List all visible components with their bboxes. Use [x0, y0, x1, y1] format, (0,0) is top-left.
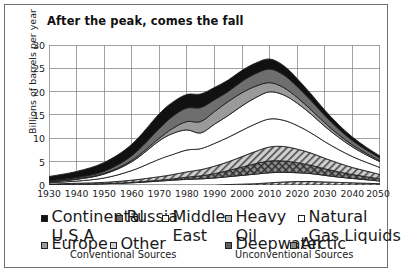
swatch-russia-icon [116, 215, 123, 222]
legend-group-conventional: Conventional Sources [70, 249, 176, 260]
swatch-heavy-oil-icon [225, 215, 232, 222]
swatch-continental-usa-icon [41, 215, 48, 222]
x-tick-1980: 1980 [175, 188, 199, 199]
x-tick-1970: 1970 [147, 188, 171, 199]
legend-label-middle-east: Middle [173, 207, 226, 226]
legend-item-middle-east[interactable]: MiddleEast [162, 207, 225, 245]
y-tick-30: 30 [23, 41, 45, 51]
x-tick-2000: 2000 [230, 188, 254, 199]
chart-title: After the peak, comes the fall [47, 14, 244, 28]
x-tick-1990: 1990 [203, 188, 227, 199]
x-tick-1960: 1960 [120, 188, 144, 199]
x-tick-2030: 2030 [313, 188, 337, 199]
y-tick-25: 25 [23, 64, 45, 74]
legend-group-unconventional: Unconventional Sources [235, 249, 353, 260]
x-tick-2020: 2020 [285, 188, 309, 199]
x-tick-2010: 2010 [258, 188, 282, 199]
plot-area [49, 45, 380, 185]
legend-label-middle-east-2: East [173, 226, 208, 245]
x-tick-1930: 1930 [37, 188, 61, 199]
x-axis-ticks: 1930 1940 1950 1960 1970 1980 1990 2000 … [5, 188, 389, 202]
legend-label-heavy-oil: Heavy [236, 207, 287, 226]
swatch-deepwater-icon [225, 242, 232, 249]
legend-label-natural-gas-liquids: Natural [309, 207, 368, 226]
y-tick-20: 20 [23, 88, 45, 98]
swatch-arctic-icon [290, 242, 297, 249]
swatch-middle-east-icon [162, 215, 169, 222]
y-axis-ticks: 30 25 20 15 10 5 0 [21, 45, 45, 185]
stacked-area-chart [49, 45, 380, 185]
y-tick-15: 15 [23, 111, 45, 121]
x-tick-1950: 1950 [92, 188, 116, 199]
swatch-europe-icon [41, 242, 48, 249]
x-tick-2040: 2040 [341, 188, 365, 199]
swatch-other-icon [110, 242, 117, 249]
x-tick-1940: 1940 [65, 188, 89, 199]
chart-legend: ContinentalU.S.A Russia MiddleEast Europ… [10, 205, 383, 267]
y-tick-5: 5 [23, 158, 45, 168]
x-tick-2050: 2050 [366, 188, 390, 199]
chart-card: After the peak, comes the fall Billions … [4, 4, 388, 268]
y-tick-10: 10 [23, 134, 45, 144]
swatch-natural-gas-liquids-icon [298, 215, 305, 222]
